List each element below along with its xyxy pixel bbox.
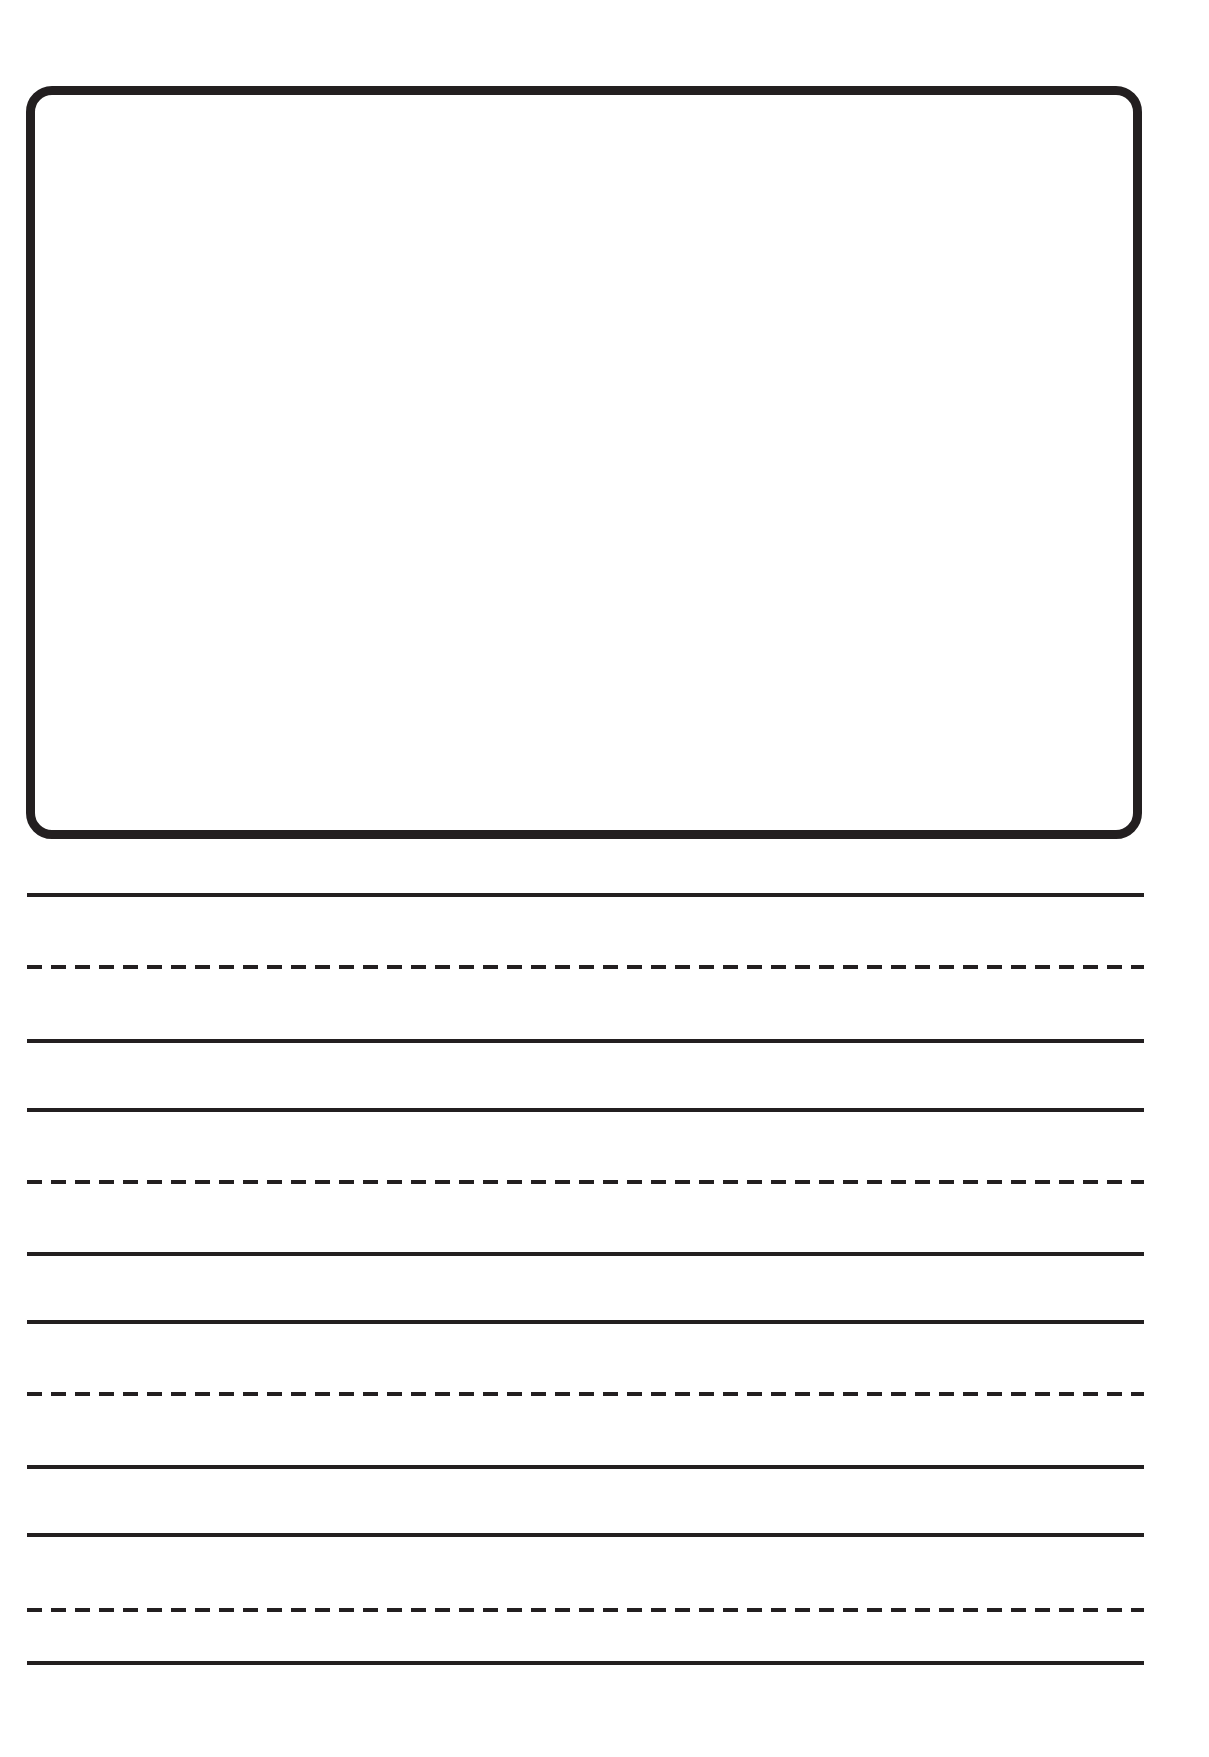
picture-box[interactable]: [26, 86, 1142, 839]
worksheet-page: [0, 0, 1209, 1757]
solid-baseline: [27, 1252, 1144, 1256]
dashed-midline: [27, 965, 1144, 969]
dashed-midline: [27, 1180, 1144, 1184]
solid-baseline: [27, 1533, 1144, 1537]
solid-baseline: [27, 1039, 1144, 1043]
picture-box-canvas[interactable]: [35, 95, 1133, 830]
solid-baseline: [27, 1465, 1144, 1469]
dashed-midline: [27, 1608, 1144, 1612]
dashed-midline: [27, 1392, 1144, 1396]
solid-baseline: [27, 1320, 1144, 1324]
solid-baseline: [27, 893, 1144, 897]
solid-baseline: [27, 1108, 1144, 1112]
solid-baseline: [27, 1661, 1144, 1665]
